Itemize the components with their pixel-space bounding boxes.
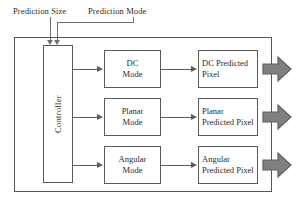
connector-angular-mode-to-angular-pixel	[161, 165, 192, 166]
input-label-prediction-mode: Prediction Mode	[88, 6, 146, 16]
planar-mode-label-line2: Mode	[123, 117, 143, 128]
angular-mode-label-line2: Mode	[123, 165, 143, 176]
connector-controller-to-planar-mode	[73, 117, 98, 118]
planar-mode-label-line1: Planar	[122, 106, 144, 117]
diagram-canvas: Prediction Size Prediction Mode Controll…	[0, 0, 300, 205]
dc-mode-label-line1: DC	[127, 58, 139, 69]
controller-label: Controller	[53, 95, 63, 133]
connector-planar-mode-to-planar-pixel	[161, 117, 192, 118]
controller-block: Controller	[43, 45, 73, 183]
angular-predicted-pixel-block: Angular Predicted Pixel	[198, 146, 258, 184]
connector-dc-mode-to-dc-pixel	[161, 69, 192, 70]
dc-mode-block: DC Mode	[104, 50, 161, 88]
dc-predicted-pixel-block: DC Predicted Pixel	[198, 50, 258, 88]
connector-controller-to-dc-mode	[73, 69, 98, 70]
leader-line-prediction-mode-drop	[133, 17, 134, 22]
angular-mode-block: Angular Mode	[104, 146, 161, 184]
planar-predicted-pixel-label-line1: Planar	[202, 106, 224, 117]
leader-line-prediction-mode-horizontal	[57, 22, 134, 23]
arrowhead-dc-mode-to-dc-pixel	[191, 66, 197, 72]
arrowhead-angular-mode-to-angular-pixel	[191, 162, 197, 168]
angular-mode-label-line1: Angular	[119, 154, 147, 165]
connector-controller-to-angular-mode	[73, 165, 98, 166]
angular-predicted-pixel-label-line2: Predicted Pixel	[202, 165, 254, 176]
arrowhead-controller-to-angular-mode	[97, 162, 103, 168]
dc-output-arrow-icon	[262, 54, 292, 84]
arrowhead-planar-mode-to-planar-pixel	[191, 114, 197, 120]
planar-mode-block: Planar Mode	[104, 98, 161, 136]
planar-predicted-pixel-block: Planar Predicted Pixel	[198, 98, 258, 136]
arrowhead-controller-to-planar-mode	[97, 114, 103, 120]
angular-output-arrow-icon	[262, 150, 292, 180]
dc-predicted-pixel-label-line1: DC Predicted	[202, 58, 248, 69]
angular-predicted-pixel-label-line1: Angular	[202, 154, 230, 165]
planar-output-arrow-icon	[262, 102, 292, 132]
planar-predicted-pixel-label-line2: Predicted Pixel	[202, 117, 254, 128]
input-label-prediction-size: Prediction Size	[13, 6, 66, 16]
dc-mode-label-line2: Mode	[123, 69, 143, 80]
arrowhead-controller-to-dc-mode	[97, 66, 103, 72]
dc-predicted-pixel-label-line2: Pixel	[202, 69, 219, 80]
